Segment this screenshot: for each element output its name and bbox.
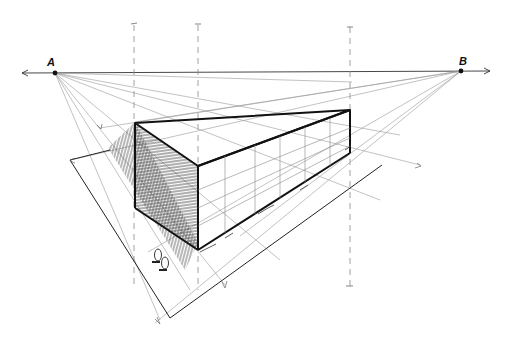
- vp-b-label: B: [459, 55, 467, 67]
- facade-grid: [198, 118, 350, 233]
- ground-plane: [70, 150, 382, 318]
- human-figures: [152, 249, 169, 270]
- construction-lines-b: [70, 71, 461, 323]
- horizon-line: [22, 68, 490, 76]
- construction-lines-a: [55, 73, 420, 320]
- vp-a-label: A: [46, 56, 55, 68]
- base-landscaping: [200, 146, 351, 252]
- perspective-drawing: A B: [0, 0, 528, 346]
- vanishing-point-b: B: [459, 55, 467, 73]
